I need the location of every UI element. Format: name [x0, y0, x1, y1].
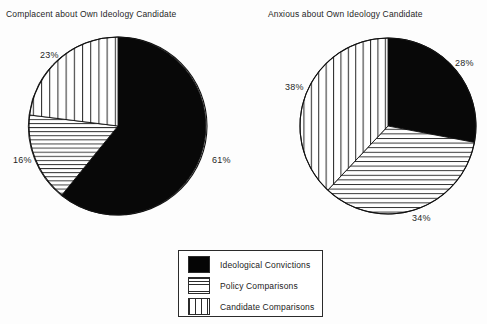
legend: Ideological Convictions Policy Compariso… — [178, 250, 323, 317]
pct-label-policy-comparisons-complacent: 16% — [13, 155, 32, 165]
pie-complacent — [28, 37, 207, 215]
pie-slice-ideological-convictions — [388, 38, 476, 142]
legend-item-ideological-convictions: Ideological Convictions — [188, 255, 310, 274]
legend-label-ideological-convictions: Ideological Convictions — [220, 260, 310, 270]
pct-label-candidate-comparisons-complacent: 23% — [40, 50, 59, 60]
legend-item-candidate-comparisons: Candidate Comparisons — [188, 297, 314, 316]
pct-label-ideological-convictions-complacent: 61% — [212, 155, 231, 165]
pct-label-candidate-comparisons-anxious: 38% — [285, 82, 304, 92]
legend-label-policy-comparisons: Policy Comparisons — [220, 281, 298, 291]
pct-label-ideological-convictions-anxious: 28% — [455, 58, 474, 68]
swatch-solid-black-icon — [188, 256, 210, 273]
pct-label-policy-comparisons-anxious: 34% — [412, 213, 431, 223]
swatch-vertical-lines-icon — [188, 298, 210, 315]
legend-item-policy-comparisons: Policy Comparisons — [188, 276, 298, 295]
pie-anxious — [300, 38, 476, 214]
figure-canvas: Complacent about Own Ideology Candidate … — [0, 0, 487, 324]
swatch-horizontal-lines-icon — [188, 277, 210, 294]
legend-label-candidate-comparisons: Candidate Comparisons — [220, 302, 314, 312]
